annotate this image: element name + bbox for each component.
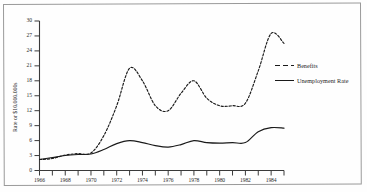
- legend-swatches: [275, 66, 294, 81]
- x-tick-marks: [40, 171, 285, 176]
- axis-lines: [40, 21, 285, 171]
- series-lines: [40, 32, 285, 159]
- plot-area: [0, 0, 367, 192]
- chart-figure: Rate or $10,000,000s 036912151821242730 …: [0, 0, 367, 192]
- y-tick-marks: [35, 21, 40, 171]
- series-line-unemployment-rate: [40, 127, 285, 159]
- series-line-benefits: [40, 32, 285, 159]
